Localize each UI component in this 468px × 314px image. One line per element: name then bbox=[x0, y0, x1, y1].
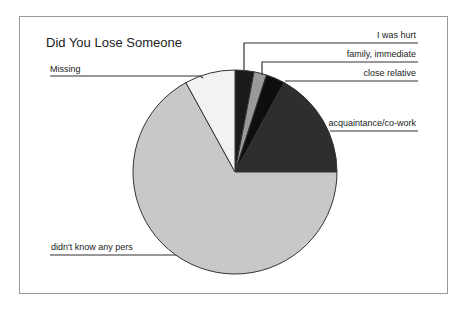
label-close-relative: close relative bbox=[363, 68, 416, 78]
label-missing: Missing bbox=[50, 64, 81, 74]
label-acquaintance: acquaintance/co-work bbox=[328, 118, 416, 128]
leader-missing bbox=[50, 76, 203, 78]
label-family-immediate: family, immediate bbox=[347, 49, 416, 59]
chart-title: Did You Lose Someone bbox=[46, 35, 182, 50]
label-i-was-hurt: I was hurt bbox=[377, 30, 416, 40]
label-didnt-know: didn't know any pers bbox=[51, 242, 133, 252]
